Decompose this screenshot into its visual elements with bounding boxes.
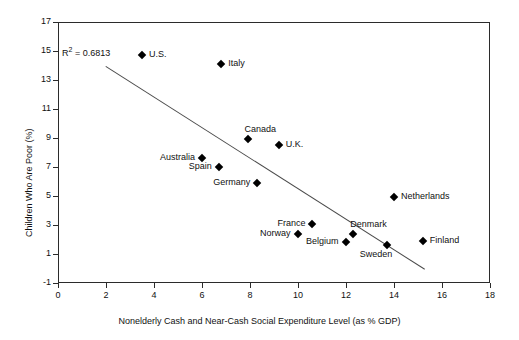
y-tick	[53, 225, 58, 226]
y-tick	[53, 80, 58, 81]
data-point-label: U.S.	[149, 49, 167, 59]
plot-area-border	[58, 22, 490, 283]
y-tick-label: 1	[26, 248, 51, 258]
y-tick-label: 3	[26, 219, 51, 229]
y-tick-label: 11	[26, 103, 51, 113]
data-point-label: France	[277, 218, 305, 228]
scatter-chart: Children Who Are Poor (%) Nonelderly Cas…	[0, 0, 519, 340]
data-point-label: Norway	[260, 228, 291, 238]
y-tick-label: 7	[26, 161, 51, 171]
data-point-label: Finland	[430, 235, 460, 245]
y-tick	[53, 22, 58, 23]
x-tick	[490, 283, 491, 288]
y-tick-label: 9	[26, 132, 51, 142]
y-tick-label: -1	[26, 277, 51, 287]
x-tick	[202, 283, 203, 288]
x-tick	[442, 283, 443, 288]
y-tick	[53, 51, 58, 52]
data-point-label: Denmark	[350, 219, 387, 229]
x-tick	[250, 283, 251, 288]
x-tick	[154, 283, 155, 288]
data-point-label: Netherlands	[401, 191, 450, 201]
y-tick-label: 17	[26, 16, 51, 26]
data-point-label: Sweden	[360, 249, 393, 259]
x-tick-label: 6	[188, 290, 216, 300]
x-tick-label: 4	[140, 290, 168, 300]
data-point-label: U.K.	[286, 139, 304, 149]
r-squared-annotation: R2 = 0.6813	[62, 46, 110, 58]
x-tick-label: 10	[284, 290, 312, 300]
data-point-label: Belgium	[306, 236, 339, 246]
x-tick-label: 8	[236, 290, 264, 300]
data-point-label: Spain	[189, 161, 212, 171]
x-tick	[394, 283, 395, 288]
y-tick-label: 15	[26, 45, 51, 55]
y-tick	[53, 167, 58, 168]
x-tick-label: 16	[428, 290, 456, 300]
x-tick-label: 0	[44, 290, 72, 300]
x-tick	[298, 283, 299, 288]
data-point-label: Germany	[213, 177, 250, 187]
y-tick	[53, 138, 58, 139]
y-tick-label: 5	[26, 190, 51, 200]
y-tick	[53, 283, 58, 284]
x-tick	[346, 283, 347, 288]
x-tick	[106, 283, 107, 288]
data-point-label: Italy	[228, 58, 245, 68]
x-tick-label: 18	[476, 290, 504, 300]
x-tick-label: 14	[380, 290, 408, 300]
y-tick-label: 13	[26, 74, 51, 84]
x-axis-title: Nonelderly Cash and Near-Cash Social Exp…	[0, 316, 519, 326]
x-tick-label: 2	[92, 290, 120, 300]
data-point-label: Canada	[245, 124, 277, 134]
y-tick	[53, 196, 58, 197]
y-tick	[53, 109, 58, 110]
x-tick-label: 12	[332, 290, 360, 300]
x-tick	[58, 283, 59, 288]
y-tick	[53, 254, 58, 255]
